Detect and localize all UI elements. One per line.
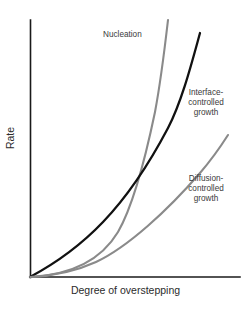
x-axis-title: Degree of overstepping [0, 284, 251, 296]
curve-nucleation [30, 20, 168, 277]
label-interface-controlled-growth: Interface- controlled growth [180, 88, 232, 118]
y-axis-title: Rate [4, 114, 16, 162]
label-nucleation: Nucleation [103, 30, 142, 40]
rate-vs-overstepping-chart: Nucleation Interface- controlled growth … [0, 0, 251, 309]
label-diffusion-controlled-growth: Diffusion- controlled growth [180, 174, 232, 204]
curve-interface-controlled-growth [30, 33, 200, 277]
plot-area [0, 0, 251, 309]
